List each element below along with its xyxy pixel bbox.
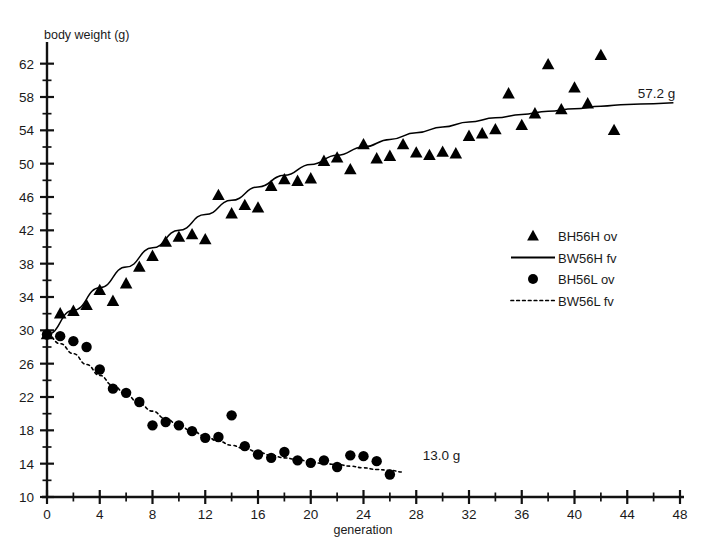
y-axis-tick-label: 38: [19, 257, 34, 272]
legend-entry-label: BW56H fv: [558, 251, 617, 266]
x-axis-title: generation: [333, 523, 392, 537]
data-point-triangle: [304, 172, 317, 183]
data-point-triangle: [436, 145, 449, 156]
data-point-triangle: [239, 199, 252, 210]
data-point-triangle: [370, 152, 383, 163]
x-axis-tick-label: 0: [43, 507, 51, 522]
data-point-triangle: [595, 49, 608, 60]
legend-circle-icon: [528, 274, 538, 284]
x-axis-tick-label: 36: [514, 507, 529, 522]
value-annotation: 57.2 g: [638, 86, 676, 101]
data-point-circle: [147, 420, 157, 430]
y-axis: 1014182226303438424650545862: [19, 42, 54, 505]
data-point-triangle: [146, 250, 159, 261]
data-point-triangle: [542, 58, 555, 69]
data-point-circle: [279, 447, 289, 457]
x-axis-tick-label: 20: [303, 507, 318, 522]
data-point-circle: [371, 456, 381, 466]
y-axis-tick-label: 42: [19, 223, 34, 238]
data-point-triangle: [252, 201, 265, 212]
data-point-triangle: [450, 147, 463, 158]
body-weight-selection-chart: body weight (g) generation 1014182226303…: [0, 0, 702, 560]
legend-triangle-icon: [527, 230, 539, 241]
data-point-triangle: [186, 228, 199, 239]
x-axis-tick-label: 24: [356, 507, 372, 522]
y-axis-tick-label: 14: [19, 457, 35, 472]
data-point-triangle: [212, 189, 225, 200]
x-axis-tick-label: 48: [672, 507, 687, 522]
x-axis-title-label: generation: [333, 523, 392, 537]
legend-entry-label: BW56L fv: [558, 294, 614, 309]
data-point-triangle: [568, 81, 581, 92]
legend-entry-label: BH56H ov: [558, 229, 618, 244]
y-axis-tick-label: 18: [19, 423, 34, 438]
data-point-circle: [55, 331, 65, 341]
data-point-circle: [68, 336, 78, 346]
data-point-triangle: [107, 295, 120, 306]
data-point-triangle: [199, 233, 212, 244]
y-axis-tick-label: 10: [19, 490, 34, 505]
data-point-circle: [200, 433, 210, 443]
chart-container: body weight (g) generation 1014182226303…: [0, 0, 702, 560]
data-point-circle: [345, 450, 355, 460]
data-point-triangle: [502, 87, 515, 98]
data-point-circle: [253, 449, 263, 459]
data-point-triangle: [397, 138, 410, 149]
data-point-triangle: [476, 127, 489, 138]
data-point-circle: [358, 451, 368, 461]
legend-entry-label: BH56L ov: [558, 272, 615, 287]
data-point-triangle: [120, 277, 133, 288]
chart-legend: BH56H ovBW56H fvBH56L ovBW56L fv: [511, 229, 618, 309]
x-axis-tick-label: 40: [567, 507, 582, 522]
chart-annotations: 57.2 g13.0 g: [423, 86, 676, 464]
data-point-circle: [226, 410, 236, 420]
y-axis-title-label: body weight (g): [44, 28, 129, 42]
data-point-triangle: [515, 119, 528, 130]
x-axis-tick-label: 32: [461, 507, 476, 522]
data-point-triangle: [344, 163, 357, 174]
data-point-triangle: [489, 123, 502, 134]
legend-entry-bw56l-fv[interactable]: BW56L fv: [511, 294, 614, 309]
data-point-circle: [81, 342, 91, 352]
x-axis-tick-label: 4: [96, 507, 104, 522]
data-point-triangle: [463, 130, 476, 141]
y-axis-tick-label: 54: [19, 123, 35, 138]
x-axis-tick-label: 8: [149, 507, 157, 522]
y-axis-tick-label: 50: [19, 157, 34, 172]
legend-entry-bh56l-ov[interactable]: BH56L ov: [528, 272, 615, 287]
data-point-triangle: [331, 151, 344, 162]
data-point-circle: [332, 462, 342, 472]
y-axis-tick-label: 58: [19, 90, 34, 105]
y-axis-title: body weight (g): [44, 28, 129, 42]
x-axis-tick-label: 12: [198, 507, 213, 522]
data-point-triangle: [173, 230, 186, 241]
legend-entry-bw56h-fv[interactable]: BW56H fv: [511, 251, 617, 266]
x-axis-tick-label: 16: [250, 507, 265, 522]
x-axis-tick-label: 44: [620, 507, 636, 522]
legend-entry-bh56h-ov[interactable]: BH56H ov: [527, 229, 618, 244]
series-bh56l-ov: [42, 329, 395, 479]
y-axis-tick-label: 26: [19, 357, 34, 372]
y-axis-tick-label: 22: [19, 390, 34, 405]
y-axis-tick-label: 62: [19, 57, 34, 72]
data-point-circle: [240, 441, 250, 451]
data-point-triangle: [54, 307, 67, 318]
series-bh56h-ov: [41, 49, 621, 340]
x-axis: 04812162024283236404448: [42, 490, 688, 522]
data-point-triangle: [225, 207, 238, 218]
data-point-triangle: [423, 149, 436, 160]
x-axis-tick-label: 28: [409, 507, 424, 522]
value-annotation: 13.0 g: [423, 448, 461, 463]
data-point-triangle: [410, 146, 423, 157]
data-point-triangle: [608, 124, 621, 135]
data-point-triangle: [384, 150, 397, 161]
data-point-triangle: [291, 175, 304, 186]
y-axis-tick-label: 34: [19, 290, 35, 305]
y-axis-tick-label: 46: [19, 190, 34, 205]
y-axis-tick-label: 30: [19, 323, 34, 338]
